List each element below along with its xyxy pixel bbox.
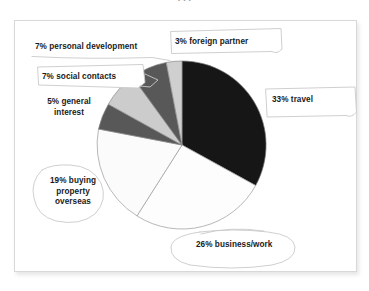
slice-label-general-interest: 5% general interest [37, 97, 101, 118]
callout-personal-development-leader [32, 57, 170, 61]
slice-label-travel: 33% travel [272, 95, 346, 106]
pie-chart: 7% personal development 7% social contac… [0, 0, 369, 291]
slice-label-foreign-partner: 3% foreign partner [175, 37, 279, 48]
slice-label-business-work: 26% business/work [196, 240, 304, 251]
slice-label-buying-property: 19% buying property overseas [41, 176, 105, 208]
slice-label-social-contacts: 7% social contacts [42, 72, 146, 83]
slice-label-personal-development: 7% personal development [35, 42, 163, 53]
